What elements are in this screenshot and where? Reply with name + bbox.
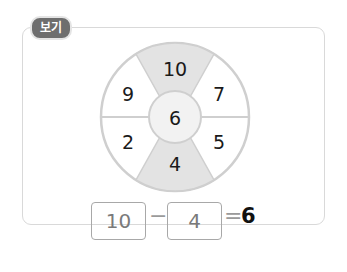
equation-result: 6: [241, 204, 256, 228]
wheel-top-left-number: 9: [122, 83, 134, 105]
wheel-top-number: 10: [163, 58, 187, 80]
equals-sign: =: [224, 203, 242, 228]
wheel-bottom-number: 4: [169, 153, 181, 175]
wheel-center-number: 6: [169, 107, 181, 129]
wheel-top-right-number: 7: [213, 83, 225, 105]
wheel-bottom-right-number: 5: [213, 131, 225, 153]
minus-sign: −: [149, 203, 167, 228]
answer-box-subtrahend[interactable]: 4: [167, 202, 222, 240]
answer-box-minuend[interactable]: 10: [91, 202, 146, 240]
wheel-bottom-left-number: 2: [122, 131, 134, 153]
